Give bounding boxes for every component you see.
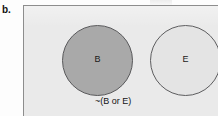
panel-letter-label: b. xyxy=(2,4,11,15)
set-circle-e: E xyxy=(150,25,218,96)
set-circle-b: B xyxy=(62,25,133,96)
figure-panel-b: b. B E ~(B or E) xyxy=(0,0,218,116)
set-label-e: E xyxy=(182,55,188,64)
complement-region-label: ~(B or E) xyxy=(95,97,131,106)
set-label-b: B xyxy=(94,55,100,64)
